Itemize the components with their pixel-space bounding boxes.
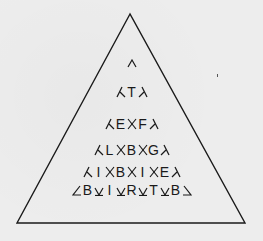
letter-cell: B: [115, 165, 126, 179]
letter-cell: I: [93, 165, 104, 179]
row-apex: [0, 59, 263, 68]
cross-join-icon: [148, 166, 159, 178]
letter-cell: F: [137, 117, 148, 131]
letter-cell: T: [148, 183, 159, 197]
cross-join-icon: [126, 166, 137, 178]
right-edge-join-icon: [137, 86, 148, 98]
row-5: B I R T B: [0, 183, 263, 197]
letter-cell: B: [170, 183, 181, 197]
letter-cell: E: [159, 165, 170, 179]
letter-cell: B: [126, 143, 137, 157]
row-4: I B I E: [0, 165, 263, 179]
row-3: L B G: [0, 143, 263, 157]
letter-cell: B: [82, 183, 93, 197]
right-edge-join-icon: [148, 118, 159, 130]
right-edge-join-icon: [159, 144, 170, 156]
letter-cell: L: [104, 143, 115, 157]
cross-join-icon: [115, 144, 126, 156]
v-join-icon: [93, 184, 104, 196]
letter-cell: I: [104, 183, 115, 197]
left-edge-join-icon: [115, 86, 126, 98]
row-2: E F: [0, 117, 263, 131]
paper-speck: [217, 74, 218, 77]
v-join-icon: [137, 184, 148, 196]
letter-cell: R: [126, 183, 137, 197]
bottom-right-corner-icon: [181, 184, 192, 196]
left-edge-join-icon: [104, 118, 115, 130]
cross-join-icon: [126, 118, 137, 130]
letter-cell: T: [126, 85, 137, 99]
left-edge-join-icon: [82, 166, 93, 178]
left-edge-join-icon: [93, 144, 104, 156]
letter-cell: E: [115, 117, 126, 131]
row-1: T: [0, 85, 263, 99]
apex-caret-icon: [126, 59, 137, 68]
letter-cell: I: [137, 165, 148, 179]
v-join-icon: [115, 184, 126, 196]
cross-join-icon: [104, 166, 115, 178]
cross-join-icon: [137, 144, 148, 156]
bottom-left-corner-icon: [71, 184, 82, 196]
letter-cell: G: [148, 143, 159, 157]
v-join-icon: [159, 184, 170, 196]
right-edge-join-icon: [170, 166, 181, 178]
